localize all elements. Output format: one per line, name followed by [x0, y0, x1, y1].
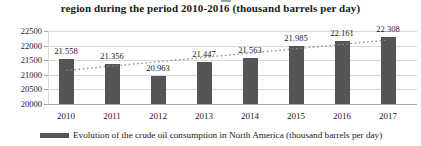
bar [381, 37, 396, 104]
bar-value-label: 20.963 [136, 63, 180, 74]
y-axis-label: 22000 [12, 41, 42, 51]
bar-value-label: 21.558 [44, 46, 88, 57]
x-axis-label: 2011 [92, 111, 132, 121]
x-axis-label: 2015 [276, 111, 316, 121]
bar [289, 46, 304, 104]
x-axis-label: 2016 [322, 111, 362, 121]
x-axis-label: 2017 [368, 111, 408, 121]
grid-line [48, 89, 417, 90]
y-axis-line [48, 31, 49, 104]
y-axis-tick [44, 104, 48, 105]
bar [197, 62, 212, 104]
bar-value-label: 21.563 [228, 45, 272, 56]
bar-value-label: 22.161 [320, 28, 364, 39]
bar-chart: 22500220002150021000205002000021.5582010… [0, 0, 421, 146]
x-axis-label: 2010 [46, 111, 86, 121]
y-axis-label: 20500 [12, 84, 42, 94]
bar [243, 58, 258, 104]
bar-value-label: 21.447 [182, 49, 226, 60]
legend-label: Evolution of the crude oil consumption i… [73, 129, 382, 142]
bar [59, 59, 74, 104]
bar-value-label: 21.356 [90, 51, 134, 62]
bar [335, 41, 350, 104]
bar-value-label: 21.985 [274, 33, 318, 44]
bar [105, 64, 120, 104]
x-axis-label: 2013 [184, 111, 224, 121]
x-axis-label: 2012 [138, 111, 178, 121]
bar-value-label: 22.308 [366, 24, 410, 35]
y-axis-label: 22500 [12, 26, 42, 36]
y-axis-label: 21500 [12, 55, 42, 65]
x-axis-line [48, 104, 417, 105]
y-axis-label: 20000 [12, 99, 42, 109]
y-axis-label: 21000 [12, 70, 42, 80]
grid-line [48, 75, 417, 76]
legend-swatch-icon [40, 133, 69, 138]
x-axis-label: 2014 [230, 111, 270, 121]
chart-legend: Evolution of the crude oil consumption i… [40, 129, 421, 143]
bar [151, 76, 166, 104]
